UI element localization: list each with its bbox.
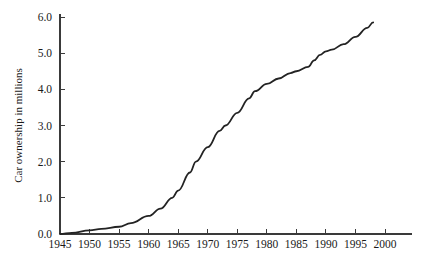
x-axis-tick-labels: 1945195019551960196519701975198019851990…: [49, 238, 397, 250]
x-axis-tick-marks: [60, 229, 385, 234]
y-tick-label: 4.0: [38, 83, 53, 95]
y-tick-label: 5.0: [38, 47, 53, 59]
x-tick-label: 1995: [344, 238, 367, 250]
x-tick-label: 1975: [226, 238, 249, 250]
y-tick-label: 3.0: [38, 120, 53, 132]
line-chart: 0.01.02.03.04.05.06.0 194519501955196019…: [0, 0, 425, 270]
x-tick-label: 1955: [108, 238, 131, 250]
x-tick-label: 1965: [167, 238, 190, 250]
y-axis-title: Car ownership in millions: [12, 68, 24, 183]
chart-container: 0.01.02.03.04.05.06.0 194519501955196019…: [0, 0, 425, 270]
y-tick-label: 2.0: [38, 156, 53, 168]
x-tick-label: 1990: [314, 238, 337, 250]
x-tick-label: 1980: [255, 238, 278, 250]
x-tick-label: 2000: [374, 238, 397, 250]
x-tick-label: 1985: [285, 238, 308, 250]
x-tick-label: 1970: [196, 238, 219, 250]
x-tick-label: 1950: [78, 238, 101, 250]
x-tick-label: 1960: [137, 238, 160, 250]
y-axis-tick-marks: [60, 17, 65, 234]
y-tick-label: 6.0: [38, 11, 53, 23]
y-axis-tick-labels: 0.01.02.03.04.05.06.0: [38, 11, 53, 240]
car-ownership-line: [60, 22, 373, 234]
x-tick-label: 1945: [49, 238, 72, 250]
y-tick-label: 1.0: [38, 192, 53, 204]
